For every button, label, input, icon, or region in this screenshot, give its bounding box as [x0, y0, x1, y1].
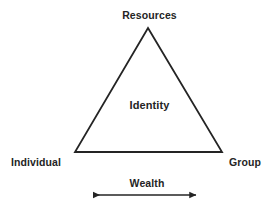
- triangle-shape: [75, 28, 222, 152]
- apex-label-resources: Resources: [0, 9, 273, 21]
- identity-triangle-diagram: Resources Identity Individual Group Weal…: [0, 0, 273, 211]
- bottom-right-label-group: Group: [229, 156, 261, 168]
- bottom-left-label-individual: Individual: [11, 156, 61, 168]
- center-label-identity: Identity: [0, 99, 273, 111]
- axis-label-wealth: Wealth: [0, 177, 273, 189]
